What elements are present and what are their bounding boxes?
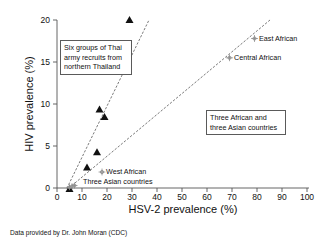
x-tick-label: 10	[77, 193, 86, 202]
data-point-triangle	[126, 16, 134, 23]
chart-figure: 0 10 20 30 40 50 60 70 80 90 100 0 5 10 …	[0, 0, 332, 245]
data-point-triangle	[96, 105, 104, 112]
data-point-triangle	[83, 163, 91, 170]
x-tick-label: 40	[152, 193, 161, 202]
thai-recruits-note: Six groups of Thai army recruits from no…	[60, 40, 132, 75]
scatter-plot-area: 0 10 20 30 40 50 60 70 80 90 100 0 5 10 …	[0, 0, 332, 245]
west-african-label: West African	[106, 168, 146, 175]
x-tick-label: 80	[252, 193, 261, 202]
countries-note: Three African and three Asian countries	[206, 110, 286, 135]
x-tick-label: 20	[102, 193, 111, 202]
x-tick-label: 70	[227, 193, 236, 202]
y-axis-title: HIV prevalence (%)	[23, 19, 35, 189]
data-point-triangle	[93, 148, 101, 155]
x-tick-label: 0	[55, 193, 60, 202]
x-tick-label: 50	[177, 193, 186, 202]
central-african-label: Central African	[234, 54, 281, 61]
x-tick-label: 100	[300, 193, 314, 202]
data-point-circle	[251, 35, 258, 42]
figure-caption: Data provided by Dr. John Moran (CDC)	[10, 229, 127, 236]
data-point-triangle	[101, 113, 109, 120]
y-axis-ticks	[53, 20, 57, 188]
x-tick-label: 60	[202, 193, 211, 202]
x-tick-label: 30	[127, 193, 136, 202]
three-asian-countries-label: Three Asian countries	[83, 178, 153, 185]
data-point-circle	[226, 54, 233, 61]
data-point-circle	[99, 169, 106, 176]
east-african-label: East African	[259, 35, 297, 42]
x-tick-label: 90	[277, 193, 286, 202]
x-axis-title: HSV-2 prevalence (%)	[57, 203, 309, 215]
